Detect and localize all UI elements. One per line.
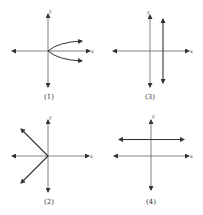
panel-1-graph: y x — [12, 8, 94, 87]
svg-text:y: y — [151, 113, 155, 120]
panel-4-graph: y x — [114, 113, 193, 190]
svg-text:y: y — [146, 9, 150, 16]
graphs-figure: y x y x y x y x — [0, 0, 203, 215]
panel-1-label: (1) — [44, 93, 54, 101]
svg-text:x: x — [190, 153, 193, 159]
panel-4-label: (4) — [146, 198, 156, 206]
panel-2-graph: y x — [12, 114, 93, 192]
ray-upper-left — [21, 129, 48, 156]
svg-text:x: x — [91, 48, 94, 54]
svg-text:y: y — [48, 8, 52, 15]
svg-text:y: y — [48, 114, 52, 121]
panel-2-label: (2) — [44, 198, 54, 206]
ray-lower-left — [21, 156, 48, 183]
svg-text:x: x — [190, 48, 193, 54]
panel-3-label: (3) — [145, 93, 155, 101]
svg-text:x: x — [90, 153, 93, 159]
panel-3-graph: y x — [113, 9, 193, 87]
